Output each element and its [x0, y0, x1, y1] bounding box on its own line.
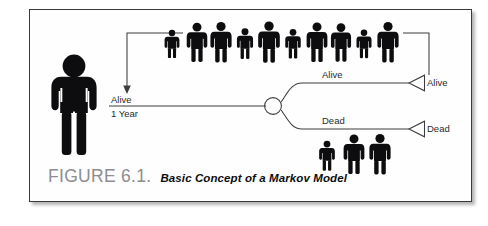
- branch-node-circle: [265, 98, 282, 115]
- cohort-row-top: [165, 21, 399, 62]
- cohort-person: [285, 29, 300, 59]
- label-branch-alive: Alive: [322, 70, 343, 80]
- label-branch-dead: Dead: [322, 116, 345, 126]
- cohort-person: [331, 23, 351, 61]
- cohort-person: [210, 22, 231, 63]
- figure-root: Alive 1 Year Alive Dead Alive Dead FIGUR…: [0, 0, 488, 226]
- label-terminal-dead: Dead: [427, 124, 450, 134]
- cohort-person: [307, 22, 328, 62]
- start-cohort-person: [51, 55, 96, 156]
- cohort-person: [258, 21, 280, 62]
- figure-caption-text: Basic Concept of a Markov Model: [160, 172, 347, 184]
- terminal-node-alive: [409, 75, 425, 91]
- label-cycle-duration: 1 Year: [111, 109, 138, 119]
- feedback-line-right: [403, 33, 429, 75]
- cohort-person: [165, 30, 180, 58]
- cohort-person: [377, 22, 398, 63]
- figure-caption-label: FIGURE 6.1.: [48, 166, 151, 187]
- branch-line-alive: [281, 83, 409, 102]
- figure-caption: FIGURE 6.1. Basic Concept of a Markov Mo…: [48, 166, 458, 192]
- cohort-person: [237, 28, 253, 59]
- cohort-person: [356, 29, 371, 58]
- label-terminal-alive: Alive: [427, 78, 448, 88]
- branch-line-dead: [281, 110, 409, 129]
- feedback-arrowhead-down: [123, 86, 131, 94]
- figure-panel: Alive 1 Year Alive Dead Alive Dead FIGUR…: [29, 9, 472, 202]
- label-cycle-alive: Alive: [111, 95, 132, 105]
- cohort-person: [187, 23, 208, 62]
- terminal-node-dead: [409, 121, 425, 137]
